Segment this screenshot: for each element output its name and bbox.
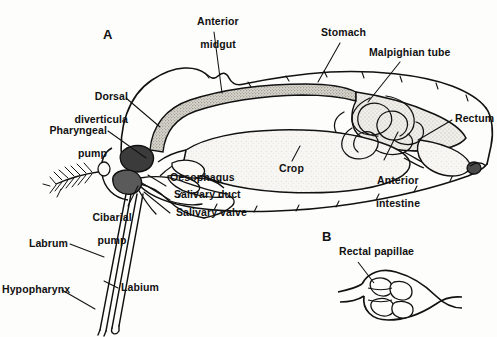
- label-pharyngeal-pump: Pharyngeal pump: [25, 113, 107, 171]
- leader-stomach: [318, 43, 340, 82]
- papilla-4: [392, 301, 413, 318]
- label-pharyngeal-pump-line1: Pharyngeal: [49, 124, 107, 136]
- label-hypopharynx: Hypopharynx: [2, 284, 60, 296]
- panel-b-group: [338, 262, 462, 320]
- leader-salivary-valve: [144, 192, 170, 213]
- panel-b-letter: B: [322, 229, 331, 244]
- label-oesophagus: Oesophagus: [170, 172, 235, 184]
- label-anterior-intestine-line1: Anterior: [377, 174, 419, 186]
- label-cibarial-pump-line2: pump: [98, 234, 127, 246]
- label-anterior-intestine-line2: intestine: [376, 197, 420, 209]
- papilla-2: [390, 281, 412, 300]
- anatomy-figure: A Anterior midgut Stomach Malpighian tub…: [0, 0, 497, 337]
- panel-b-papillae: [370, 278, 413, 318]
- pharyngeal-pump-body: [120, 146, 153, 173]
- label-crop: Crop: [279, 163, 304, 175]
- label-anterior-midgut-line2: midgut: [200, 38, 236, 50]
- papilla-1: [370, 278, 392, 296]
- rectum-sac: [418, 140, 470, 176]
- label-malpighian-tube: Malpighian tube: [369, 47, 450, 59]
- label-cibarial-pump-line1: Cibarial: [92, 211, 131, 223]
- label-anterior-intestine: Anterior intestine: [363, 163, 421, 221]
- panel-a-letter: A: [103, 27, 112, 42]
- label-rectum: Rectum: [455, 113, 494, 125]
- cibarial-pump-body: [113, 170, 142, 194]
- label-stomach: Stomach: [321, 27, 366, 39]
- label-labrum: Labrum: [18, 238, 68, 250]
- leader-malpighian-tube: [368, 62, 400, 102]
- labrum-tip: [98, 330, 100, 335]
- label-pharyngeal-pump-line2: pump: [78, 147, 107, 159]
- label-dorsal-diverticula-line1: Dorsal: [95, 90, 128, 102]
- label-rectal-papillae: Rectal papillae: [339, 246, 414, 258]
- leader-rectal-papillae: [358, 262, 374, 283]
- panel-b-intestine-lower: [340, 296, 364, 302]
- panel-b-intestine-upper: [338, 284, 362, 292]
- leader-dorsal-diverticula: [126, 98, 160, 127]
- label-salivary-duct: Salivary duct: [174, 189, 241, 201]
- leader-labium: [104, 281, 118, 288]
- label-salivary-valve: Salivary valve: [176, 207, 247, 219]
- label-anterior-midgut-line1: Anterior: [197, 15, 239, 27]
- label-cibarial-pump: Cibarial pump: [78, 200, 134, 258]
- label-labium: Labium: [121, 282, 159, 294]
- hypopharynx-tip: [104, 331, 106, 336]
- label-anterior-midgut: Anterior midgut: [176, 4, 248, 62]
